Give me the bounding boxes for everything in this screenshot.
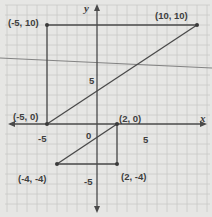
point-label: (-4, -4) <box>18 173 47 184</box>
point-label: (-5, 0) <box>13 111 38 122</box>
point-label: (10, 10) <box>155 10 188 21</box>
x-tick-label: -5 <box>38 133 47 144</box>
point-marker <box>115 162 119 166</box>
point-marker <box>45 122 49 126</box>
y-tick-label: 5 <box>89 75 95 86</box>
x-tick-label: 5 <box>143 134 149 145</box>
y-axis-label: y <box>82 2 89 14</box>
y-axis-arrow-down-icon <box>94 206 100 213</box>
x-axis-label: x <box>199 112 206 124</box>
point-marker <box>195 23 199 27</box>
stray-line <box>0 58 212 68</box>
coordinate-graph: (-5, 10) (10, 10) (-5, 0) (2, 0) (-4, -4… <box>0 0 212 217</box>
large-triangle <box>47 25 197 124</box>
y-tick-label: -5 <box>84 176 93 187</box>
origin-label: 0 <box>86 130 91 141</box>
point-label: (2, -4) <box>121 171 146 182</box>
point-label: (-5, 10) <box>8 17 39 28</box>
point-label: (2, 0) <box>119 113 141 124</box>
points <box>45 23 199 166</box>
point-marker <box>55 162 59 166</box>
point-marker <box>45 23 49 27</box>
